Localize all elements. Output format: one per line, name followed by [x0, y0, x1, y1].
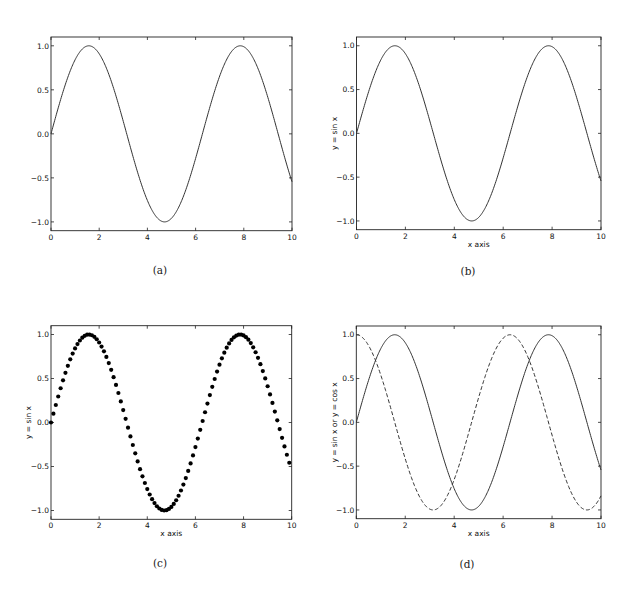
y-tick-label: 0.0: [37, 418, 49, 427]
data-point: [148, 492, 152, 496]
data-point: [59, 386, 63, 390]
data-point: [138, 467, 142, 471]
data-point: [198, 428, 202, 432]
sin-curve: [357, 46, 602, 221]
data-point: [225, 346, 229, 350]
data-point: [261, 369, 265, 373]
x-tick-label: 8: [241, 521, 246, 530]
data-point: [116, 391, 120, 395]
data-point: [193, 445, 197, 449]
plot-area: [357, 46, 602, 221]
data-point: [145, 487, 149, 491]
data-point: [114, 383, 118, 387]
panel-d: 02468101.00.50.0−0.5−1.0 x axis y = sin …: [330, 326, 606, 570]
data-point: [246, 338, 250, 342]
data-point: [256, 356, 260, 360]
x-tick-label: 0: [49, 521, 54, 530]
x-tick-label: 4: [145, 233, 150, 242]
y-tick-label: 1.0: [37, 330, 49, 339]
x-tick-label: 2: [97, 233, 102, 242]
data-point: [102, 349, 106, 353]
data-point: [124, 417, 128, 421]
data-point: [285, 453, 289, 457]
caption: (c): [153, 557, 167, 569]
data-point: [133, 451, 137, 455]
data-point: [99, 344, 103, 348]
y-tick-label: −1.0: [31, 506, 49, 515]
data-point: [54, 403, 58, 407]
data-point: [143, 481, 147, 485]
data-point: [51, 412, 55, 416]
x-tick-label: 6: [193, 521, 198, 530]
y-tick-label: 0.0: [342, 418, 354, 427]
sin-curve: [51, 46, 292, 222]
data-point: [189, 461, 193, 465]
y-tick-label: 0.5: [37, 86, 49, 95]
data-point: [63, 371, 67, 375]
y-tick-label: −0.5: [336, 173, 354, 182]
data-point: [208, 393, 212, 397]
data-point: [253, 350, 257, 354]
x-axis-label: x axis: [468, 240, 490, 249]
data-point: [270, 401, 274, 405]
data-point: [184, 476, 188, 480]
data-point: [140, 474, 144, 478]
axes-frame: [356, 326, 601, 519]
data-point: [75, 342, 79, 346]
data-point: [56, 394, 60, 398]
data-point: [266, 384, 270, 388]
plot-area: [49, 332, 291, 512]
axes-frame: [51, 37, 292, 231]
x-axis-label: x axis: [160, 529, 182, 538]
data-point: [205, 401, 209, 405]
y-tick-label: 0.0: [343, 129, 355, 138]
data-point: [181, 482, 185, 486]
y-axis-label: y = sin x: [24, 405, 33, 439]
x-tick-label: 0: [354, 232, 359, 241]
ticks: 02468101.00.50.0−0.5−1.0: [31, 37, 297, 242]
data-point: [126, 426, 130, 430]
data-point: [282, 444, 286, 448]
caption: (d): [460, 558, 475, 570]
data-point: [263, 376, 267, 380]
data-point: [107, 361, 111, 365]
x-axis-label: x axis: [468, 529, 490, 538]
x-tick-label: 6: [501, 521, 506, 530]
x-tick-label: 2: [403, 232, 408, 241]
data-point: [213, 377, 217, 381]
y-tick-label: 0.0: [37, 130, 49, 139]
y-tick-label: 0.5: [342, 374, 354, 383]
data-point: [186, 469, 190, 473]
data-point: [109, 368, 113, 372]
data-point: [273, 409, 277, 413]
data-point: [131, 443, 135, 447]
panel-c: 02468101.00.50.0−0.5−1.0 x axis y = sin …: [24, 326, 297, 569]
x-tick-label: 10: [287, 233, 297, 242]
x-tick-label: 8: [550, 232, 555, 241]
data-point: [68, 357, 72, 361]
y-tick-label: −0.5: [31, 462, 49, 471]
data-point: [111, 375, 115, 379]
x-tick-label: 6: [193, 233, 198, 242]
y-tick-label: −1.0: [31, 218, 49, 227]
data-point: [210, 385, 214, 389]
caption: (a): [153, 264, 167, 276]
y-axis-label: y = sin x or y = cos x: [330, 382, 339, 463]
data-point: [119, 399, 123, 403]
x-tick-label: 4: [145, 521, 150, 530]
y-axis-label: y = sin x: [330, 116, 339, 150]
y-tick-label: 0.5: [343, 85, 355, 94]
x-tick-label: 2: [403, 521, 408, 530]
data-point: [227, 341, 231, 345]
data-point: [196, 436, 200, 440]
data-point: [217, 363, 221, 367]
panel-a: 02468101.00.50.0−0.5−1.0 (a): [31, 37, 297, 276]
y-tick-label: 0.5: [37, 374, 49, 383]
data-point: [222, 351, 226, 355]
axes-frame: [357, 37, 602, 230]
data-point: [201, 419, 205, 423]
data-point: [280, 436, 284, 440]
y-tick-label: −0.5: [31, 174, 49, 183]
x-tick-label: 6: [501, 232, 506, 241]
x-tick-label: 10: [596, 232, 606, 241]
